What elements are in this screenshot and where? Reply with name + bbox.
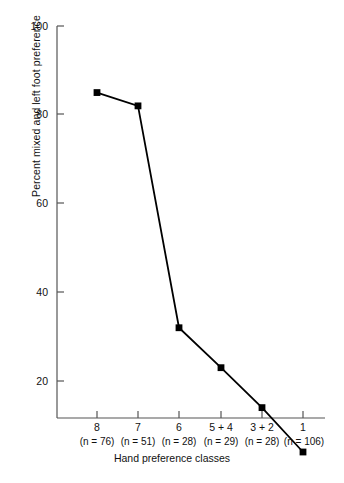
- chart-figure: Percent mixed and left foot preference 1…: [0, 0, 344, 483]
- x-n-label-5: (n = 106): [276, 436, 332, 447]
- x-cat-label-2: 6: [159, 421, 199, 433]
- data-series-line: [97, 93, 303, 452]
- x-cat-label-0: 8: [77, 421, 117, 433]
- x-cat-label-5: 1: [283, 421, 323, 433]
- data-series-markers: [94, 89, 307, 455]
- data-point-marker: [218, 364, 225, 371]
- data-point-marker: [259, 404, 266, 411]
- x-cat-label-4: 3 + 2: [237, 421, 287, 433]
- plot-area: [0, 0, 344, 483]
- data-point-marker: [135, 102, 142, 109]
- data-point-marker: [176, 324, 183, 331]
- data-point-marker: [94, 89, 101, 96]
- x-axis-title: Hand preference classes: [0, 452, 344, 464]
- x-cat-label-1: 7: [118, 421, 158, 433]
